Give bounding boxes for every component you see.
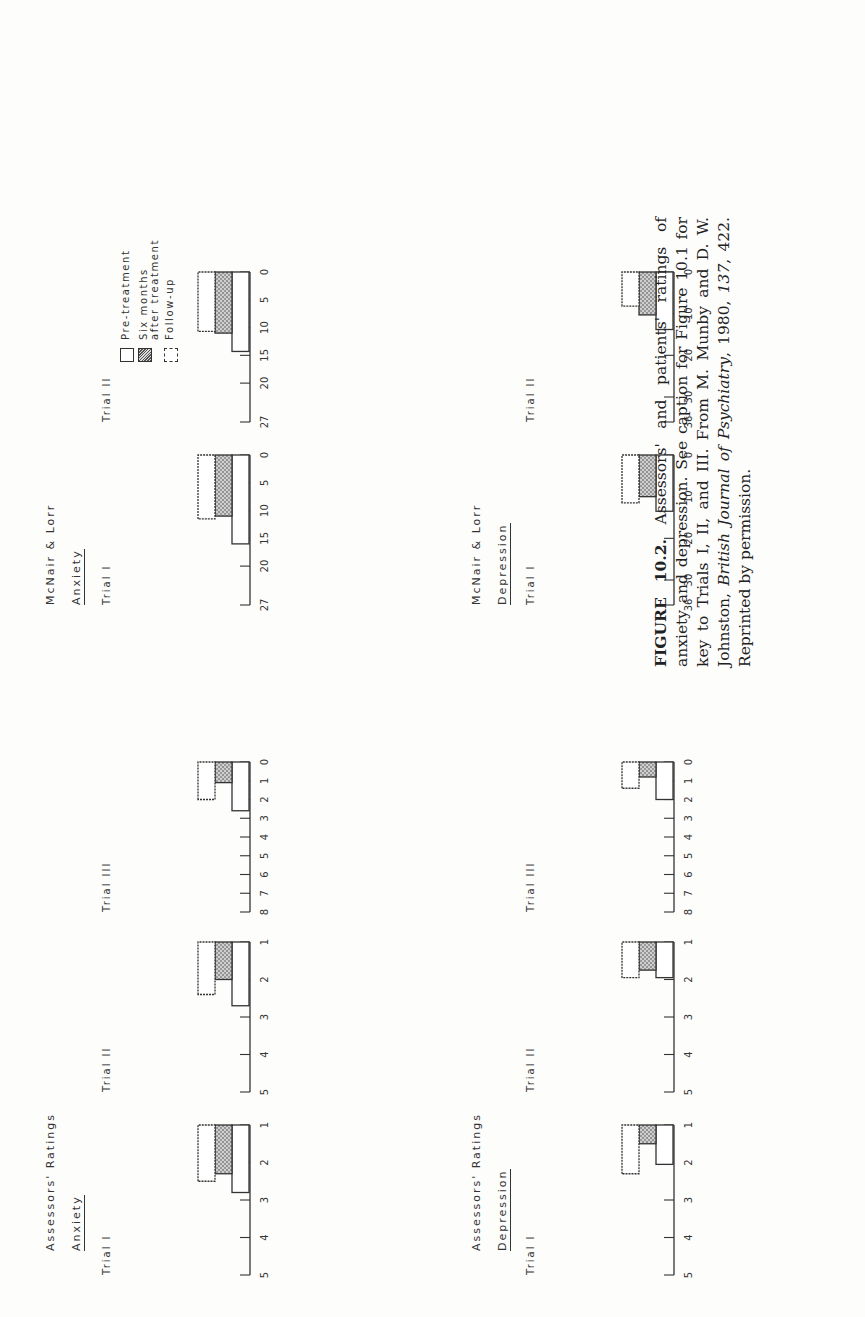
tick-label: 1 <box>683 778 694 784</box>
caption-journal: British Journal of Psychiatry <box>715 357 733 586</box>
bar-follow-up <box>198 942 215 995</box>
tick-label: 10 <box>259 504 270 517</box>
tick-label: 2 <box>683 976 694 982</box>
tick-label: 3 <box>259 1197 270 1203</box>
figure-caption: FIGURE 10.2. Assessors' and patients' ra… <box>650 217 756 667</box>
tick-label: 2 <box>259 976 270 982</box>
tick-label: 1 <box>683 939 694 945</box>
tick-label: 20 <box>259 377 270 390</box>
bar-pre-treatment <box>232 455 249 544</box>
assessors-anxiety-subtitle: Anxiety <box>70 1195 85 1251</box>
bar-six-months-after-treatment <box>215 272 232 333</box>
tick-label: 2 <box>683 796 694 802</box>
bar-six-months-after-treatment <box>639 762 656 777</box>
bar-pre-treatment <box>232 1125 249 1193</box>
assessors-anxiety-title: Assessors' Ratings <box>44 1113 57 1251</box>
tick-label: 3 <box>259 1014 270 1020</box>
bar-six-months-after-treatment <box>215 1125 232 1174</box>
chart-legend: Pre-treatment Six monthsafter treatment … <box>120 239 182 362</box>
trial-label: Trial II <box>101 1046 112 1093</box>
tick-label: 10 <box>259 321 270 334</box>
bar-chart-svg: Trial II12345 <box>98 932 328 1092</box>
assessors-depression-title: Assessors' Ratings <box>470 1113 483 1251</box>
tick-label: 15 <box>259 349 270 362</box>
bar-pre-treatment <box>232 272 249 351</box>
bar-chart-svg: Trial III012345678 <box>522 752 752 912</box>
tick-label: 7 <box>259 890 270 896</box>
tick-label: 15 <box>259 532 270 545</box>
tick-label: 1 <box>259 1122 270 1128</box>
caption-volume: 137 <box>715 264 733 294</box>
trial-label: Trial I <box>101 1234 112 1276</box>
tick-label: 4 <box>259 1051 270 1057</box>
bar-follow-up <box>622 1125 639 1174</box>
tick-label: 2 <box>683 1159 694 1165</box>
bar-follow-up <box>622 942 639 978</box>
tick-label: 3 <box>683 1197 694 1203</box>
tick-label: 2 <box>259 1159 270 1165</box>
mcnair-depression-title: McNair & Lorr <box>470 504 483 605</box>
bar-follow-up <box>622 762 639 788</box>
stippled-swatch-icon <box>138 348 152 362</box>
tick-label: 4 <box>259 1234 270 1240</box>
trial-label: Trial III <box>101 862 112 913</box>
bar-follow-up <box>622 272 639 306</box>
bar-chart-svg: Trial I0510152027 <box>98 445 328 605</box>
mcnair-anxiety-title: McNair & Lorr <box>44 504 57 605</box>
bar-six-months-after-treatment <box>215 455 232 516</box>
chart-assessors-depression-trial-2: Trial II12345 <box>522 932 756 1092</box>
tick-label: 6 <box>259 871 270 877</box>
tick-label: 0 <box>259 269 270 275</box>
tick-label: 5 <box>259 1272 270 1278</box>
bar-pre-treatment <box>656 1125 673 1164</box>
tick-label: 1 <box>683 1122 694 1128</box>
tick-label: 0 <box>259 759 270 765</box>
tick-label: 5 <box>259 297 270 303</box>
mcnair-depression-subtitle: Depression <box>496 524 511 606</box>
chart-assessors-depression-trial-3: Trial III012345678 <box>522 752 756 912</box>
chart-mcnair-anxiety-trial-1: Trial I0510152027 <box>98 445 332 605</box>
bar-chart-svg: Trial I12345 <box>98 1115 328 1275</box>
tick-label: 5 <box>259 1089 270 1095</box>
chart-assessors-anxiety-trial-2: Trial II12345 <box>98 932 332 1092</box>
tick-label: 4 <box>683 834 694 840</box>
open-swatch-icon <box>120 348 134 362</box>
trial-label: Trial I <box>525 1234 536 1276</box>
tick-label: 0 <box>683 759 694 765</box>
tick-label: 4 <box>683 1051 694 1057</box>
chart-assessors-anxiety-trial-1: Trial I12345 <box>98 1115 332 1275</box>
chart-assessors-depression-trial-1: Trial I12345 <box>522 1115 756 1275</box>
tick-label: 27 <box>259 599 270 612</box>
bar-follow-up <box>198 1125 215 1181</box>
legend-item-six-months: Six monthsafter treatment <box>138 239 160 362</box>
trial-label: Trial II <box>525 1046 536 1093</box>
bar-six-months-after-treatment <box>639 1125 656 1144</box>
bar-pre-treatment <box>656 762 673 800</box>
legend-item-follow-up: Follow-up <box>164 239 178 362</box>
tick-label: 1 <box>259 778 270 784</box>
trial-label: Trial III <box>525 862 536 913</box>
rotated-figure-page: Assessors' Ratings Anxiety McNair & Lorr… <box>0 0 865 1317</box>
bar-pre-treatment <box>232 762 249 811</box>
tick-label: 5 <box>259 480 270 486</box>
bar-follow-up <box>198 455 215 519</box>
tick-label: 5 <box>683 853 694 859</box>
bar-six-months-after-treatment <box>639 942 656 970</box>
bar-pre-treatment <box>656 942 673 978</box>
trial-label: Trial II <box>101 376 112 423</box>
tick-label: 5 <box>683 1272 694 1278</box>
tick-label: 7 <box>683 890 694 896</box>
tick-label: 27 <box>259 416 270 429</box>
assessors-depression-subtitle: Depression <box>496 1170 511 1252</box>
chart-assessors-anxiety-trial-3: Trial III012345678 <box>98 752 332 912</box>
tick-label: 3 <box>683 1014 694 1020</box>
legend-item-pre-treatment: Pre-treatment <box>120 239 134 362</box>
tick-label: 5 <box>259 853 270 859</box>
tick-label: 8 <box>259 909 270 915</box>
tick-label: 5 <box>683 1089 694 1095</box>
bar-chart-svg: Trial II12345 <box>522 932 752 1092</box>
tick-label: 4 <box>259 834 270 840</box>
tick-label: 8 <box>683 909 694 915</box>
tick-label: 0 <box>259 452 270 458</box>
trial-label: Trial II <box>525 376 536 423</box>
